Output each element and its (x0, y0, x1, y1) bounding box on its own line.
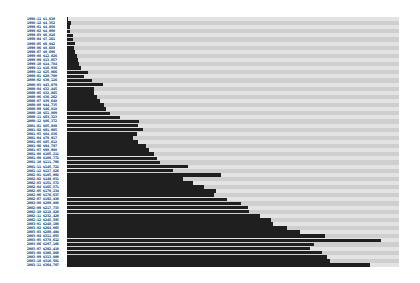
bar (67, 263, 370, 267)
bar-row: 2003-11 $364,707 (0, 263, 420, 267)
horizontal-bar-chart: 1998-11 $1,6301998-12 $4,3521999-01 $4,0… (0, 0, 420, 283)
category-label: 2003-11 $364,707 (27, 263, 67, 267)
